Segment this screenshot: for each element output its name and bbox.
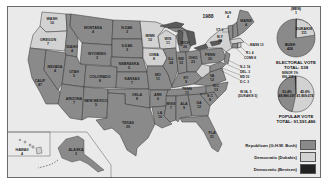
electoral-bentsen-label: (BEN)1	[291, 7, 302, 15]
state-conn[interactable]	[232, 43, 238, 48]
legend-republican: Republican (G.H.W. Bush)	[245, 140, 316, 150]
state-iowa[interactable]	[143, 48, 167, 66]
legend-label-republican: Republican (G.H.W. Bush)	[245, 143, 297, 148]
legend-label-dukakis: Democratic (Dukakis)	[254, 155, 297, 160]
map-year-title: 1988	[202, 13, 213, 19]
alaska-islands	[38, 160, 58, 168]
popular-vote-total: TOTAL: 91,591,486	[277, 119, 316, 124]
inset-divider	[8, 132, 111, 178]
state-r-i[interactable]	[238, 43, 241, 48]
callout-ri: R.I. 4	[246, 51, 254, 55]
electoral-vote-pie	[277, 19, 315, 57]
state-n-j[interactable]	[224, 52, 230, 64]
hawaii-box	[8, 132, 50, 156]
label-hawaii: HAWAII4	[16, 148, 29, 156]
legend-bentsen: Democratic (Bentsen)	[254, 164, 316, 174]
legend-label-bentsen: Democratic (Bentsen)	[254, 167, 297, 172]
callout-md: MD 10	[240, 75, 250, 79]
legend-dukakis: Democratic (Dukakis)	[254, 152, 316, 162]
callout-vt: VT. 3	[216, 28, 223, 32]
electoral-vote-total: TOTAL: 538	[284, 65, 309, 70]
state-fla[interactable]	[180, 116, 222, 152]
callout-wva-note: (DUKAKIS 5)	[238, 94, 257, 98]
label-va: VA12	[210, 74, 215, 82]
callout-del: DEL. 3	[240, 70, 250, 74]
state-alaska[interactable]	[58, 136, 104, 172]
legend-swatch-dukakis	[300, 152, 316, 162]
label-n-h: N.H4	[225, 11, 232, 19]
callout-dc: D.C. 3	[240, 80, 249, 84]
callout-mass: MASS 13	[250, 43, 264, 47]
callout-conn: CONN 8	[244, 56, 256, 60]
callout-nj: N.J. 16	[240, 65, 251, 69]
legend-swatch-bentsen	[300, 164, 316, 174]
legend-swatch-republican	[300, 140, 316, 150]
state-arizona[interactable]	[58, 84, 84, 120]
